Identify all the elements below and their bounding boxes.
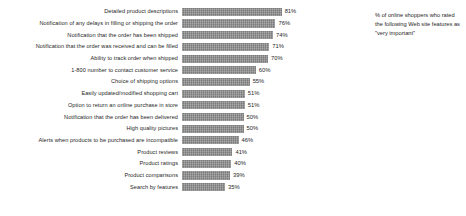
bar-chart-figure: Detailed product descriptions81%Notifica… — [0, 0, 466, 216]
chart-bar-row: Notification of any delays in filling or… — [0, 18, 352, 30]
bar-rect — [182, 90, 245, 98]
bar-category-label: Product ratings — [0, 160, 182, 167]
chart-bar-row: Product comparisons39% — [0, 170, 352, 182]
chart-bar-row: Ability to track order when shipped70% — [0, 53, 352, 65]
chart-bar-row: Notification that the order has been del… — [0, 111, 352, 123]
bar-rect — [182, 125, 244, 133]
bar-value-label: 60% — [256, 67, 271, 74]
bar-value-label: 50% — [244, 125, 259, 132]
bar-value-label: 71% — [269, 43, 284, 50]
bar-rect — [182, 136, 239, 144]
bar-track: 81% — [182, 6, 352, 18]
bar-value-label: 55% — [250, 78, 265, 85]
bar-rect — [182, 31, 273, 39]
bar-category-label: Notification of any delays in filling or… — [0, 20, 182, 27]
chart-bar-row: Choice of shipping options55% — [0, 76, 352, 88]
bar-category-label: Notification that the order has been del… — [0, 114, 182, 121]
bar-track: 39% — [182, 170, 352, 182]
bar-track: 51% — [182, 88, 352, 100]
chart-bar-row: Product reviews41% — [0, 146, 352, 158]
bar-track: 50% — [182, 111, 352, 123]
chart-bar-row: Product ratings40% — [0, 158, 352, 170]
bar-value-label: 51% — [245, 90, 260, 97]
chart-bar-row: 1-800 number to contact customer service… — [0, 64, 352, 76]
bar-track: 46% — [182, 135, 352, 147]
bar-category-label: Search by features — [0, 184, 182, 191]
bar-track: 35% — [182, 181, 352, 193]
bar-category-label: Detailed product descriptions — [0, 8, 182, 15]
chart-plot-area: Detailed product descriptions81%Notifica… — [0, 6, 352, 193]
bar-category-label: Ability to track order when shipped — [0, 55, 182, 62]
bar-track: 74% — [182, 29, 352, 41]
bar-track: 50% — [182, 123, 352, 135]
bar-rect — [182, 55, 268, 63]
bar-category-label: Product comparisons — [0, 172, 182, 179]
bar-track: 60% — [182, 64, 352, 76]
bar-rect — [182, 66, 256, 74]
bar-rect — [182, 43, 269, 51]
chart-bar-row: Notification that the order has been shi… — [0, 29, 352, 41]
bar-category-label: Choice of shipping options — [0, 78, 182, 85]
chart-annotation-text: % of online shoppers who rated the follo… — [375, 11, 461, 39]
chart-bar-row: High quality pictures50% — [0, 123, 352, 135]
bar-category-label: Alerts when products to be purchased are… — [0, 137, 182, 144]
bar-category-label: Product reviews — [0, 149, 182, 156]
bar-value-label: 81% — [282, 8, 297, 15]
bar-value-label: 40% — [231, 160, 246, 167]
bar-category-label: Easily updated/modified shopping cart — [0, 90, 182, 97]
bar-rect — [182, 113, 244, 121]
bar-category-label: High quality pictures — [0, 125, 182, 132]
chart-bar-row: Notification that the order was received… — [0, 41, 352, 53]
bar-category-label: Notification that the order has been shi… — [0, 32, 182, 39]
bar-rect — [182, 183, 225, 191]
chart-bar-row: Alerts when products to be purchased are… — [0, 135, 352, 147]
bar-value-label: 41% — [232, 149, 247, 156]
bar-track: 76% — [182, 18, 352, 30]
bar-track: 40% — [182, 158, 352, 170]
bar-rect — [182, 78, 250, 86]
bar-track: 71% — [182, 41, 352, 53]
bar-value-label: 50% — [244, 114, 259, 121]
bar-rect — [182, 148, 232, 156]
bar-track: 41% — [182, 146, 352, 158]
bar-value-label: 46% — [239, 137, 254, 144]
bar-rect — [182, 19, 275, 27]
bar-value-label: 51% — [245, 102, 260, 109]
bar-category-label: Option to return an online purchase in s… — [0, 102, 182, 109]
bar-value-label: 70% — [268, 55, 283, 62]
bar-track: 55% — [182, 76, 352, 88]
bar-track: 70% — [182, 53, 352, 65]
bar-value-label: 74% — [273, 32, 288, 39]
bar-category-label: Notification that the order was received… — [0, 43, 182, 50]
chart-bar-row: Search by features35% — [0, 181, 352, 193]
bar-value-label: 39% — [230, 172, 245, 179]
bar-category-label: 1-800 number to contact customer service — [0, 67, 182, 74]
bar-track: 51% — [182, 100, 352, 112]
chart-bar-row: Option to return an online purchase in s… — [0, 100, 352, 112]
chart-bar-row: Easily updated/modified shopping cart51% — [0, 88, 352, 100]
bar-rect — [182, 171, 230, 179]
bar-value-label: 35% — [225, 184, 240, 191]
bar-rect — [182, 160, 231, 168]
bar-rect — [182, 8, 282, 16]
chart-bar-row: Detailed product descriptions81% — [0, 6, 352, 18]
bar-rect — [182, 101, 245, 109]
bar-value-label: 76% — [275, 20, 290, 27]
